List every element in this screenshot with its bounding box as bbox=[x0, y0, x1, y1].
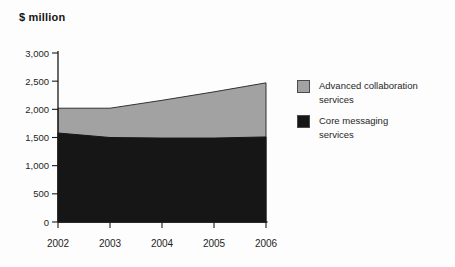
y-tick-label: 1,500 bbox=[25, 132, 49, 143]
core-messaging-area bbox=[58, 133, 266, 222]
legend-label-advanced-collaboration: Advanced collaboration services bbox=[319, 79, 425, 106]
y-tick-label: 2,500 bbox=[25, 76, 49, 87]
y-tick-label: 1,000 bbox=[25, 160, 49, 171]
x-tick-label: 2004 bbox=[151, 238, 174, 249]
y-tick-label: 500 bbox=[33, 188, 49, 199]
y-tick-label: 2,000 bbox=[25, 104, 49, 115]
legend-item-advanced-collaboration: Advanced collaboration services bbox=[297, 79, 425, 106]
x-tick-label: 2005 bbox=[203, 238, 226, 249]
y-tick-label: 3,000 bbox=[25, 48, 49, 59]
x-tick-label: 2002 bbox=[47, 238, 70, 249]
legend-swatch-core-messaging bbox=[297, 115, 310, 128]
y-tick-label: 0 bbox=[44, 217, 49, 228]
legend-label-core-messaging: Core messaging services bbox=[319, 114, 425, 141]
legend-item-core-messaging: Core messaging services bbox=[297, 114, 425, 141]
x-tick-label: 2006 bbox=[255, 238, 278, 249]
legend: Advanced collaboration services Core mes… bbox=[297, 79, 425, 149]
chart-figure: $ million 05001,0001,5002,0002,5003,0002… bbox=[0, 0, 455, 267]
x-tick-label: 2003 bbox=[99, 238, 122, 249]
legend-swatch-advanced-collaboration bbox=[297, 80, 310, 93]
